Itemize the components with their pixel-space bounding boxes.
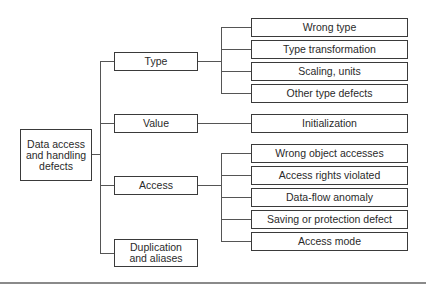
category-label: Duplication and aliases bbox=[115, 242, 197, 264]
connector-value bbox=[100, 123, 114, 124]
connector-value-out bbox=[198, 123, 251, 124]
connector-leaf bbox=[221, 153, 251, 154]
category-label: Value bbox=[143, 118, 169, 129]
category-duplication: Duplication and aliases bbox=[114, 239, 198, 267]
category-label: Type bbox=[145, 56, 168, 67]
leaf-label: Access mode bbox=[298, 236, 361, 247]
category-value: Value bbox=[114, 114, 198, 133]
leaf-label: Scaling, units bbox=[298, 66, 360, 77]
trunk-type bbox=[221, 27, 222, 94]
leaf-access-rights-violated: Access rights violated bbox=[251, 166, 408, 185]
connector-leaf bbox=[221, 219, 251, 220]
root-label: Data access and handling defects bbox=[21, 139, 91, 172]
leaf-label: Wrong type bbox=[303, 22, 357, 33]
category-type: Type bbox=[114, 52, 198, 71]
leaf-label: Other type defects bbox=[287, 88, 373, 99]
connector-leaf bbox=[221, 241, 251, 242]
connector-leaf bbox=[221, 175, 251, 176]
leaf-initialization: Initialization bbox=[251, 114, 408, 133]
leaf-saving-protection-defect: Saving or protection defect bbox=[251, 210, 408, 229]
connector-leaf bbox=[221, 49, 251, 50]
leaf-wrong-object-accesses: Wrong object accesses bbox=[251, 144, 408, 163]
root-node: Data access and handling defects bbox=[20, 129, 92, 181]
leaf-type-transformation: Type transformation bbox=[251, 40, 408, 59]
leaf-label: Type transformation bbox=[283, 44, 376, 55]
leaf-other-type-defects: Other type defects bbox=[251, 84, 408, 103]
connector-leaf bbox=[221, 27, 251, 28]
leaf-label: Wrong object accesses bbox=[275, 148, 383, 159]
leaf-data-flow-anomaly: Data-flow anomaly bbox=[251, 188, 408, 207]
connector-access bbox=[100, 185, 114, 186]
leaf-wrong-type: Wrong type bbox=[251, 18, 408, 37]
bottom-divider bbox=[0, 282, 426, 284]
connector-leaf bbox=[221, 197, 251, 198]
connector-access-out bbox=[198, 185, 221, 186]
connector-type bbox=[100, 61, 114, 62]
leaf-label: Saving or protection defect bbox=[267, 214, 392, 225]
trunk-main bbox=[100, 61, 101, 254]
connector-duplication bbox=[100, 253, 114, 254]
leaf-label: Initialization bbox=[302, 118, 357, 129]
category-access: Access bbox=[114, 176, 198, 195]
leaf-access-mode: Access mode bbox=[251, 232, 408, 251]
leaf-label: Access rights violated bbox=[279, 170, 381, 181]
connector-leaf bbox=[221, 71, 251, 72]
connector-leaf bbox=[221, 93, 251, 94]
category-label: Access bbox=[139, 180, 173, 191]
leaf-label: Data-flow anomaly bbox=[286, 192, 373, 203]
connector-type-out bbox=[198, 61, 221, 62]
leaf-scaling-units: Scaling, units bbox=[251, 62, 408, 81]
